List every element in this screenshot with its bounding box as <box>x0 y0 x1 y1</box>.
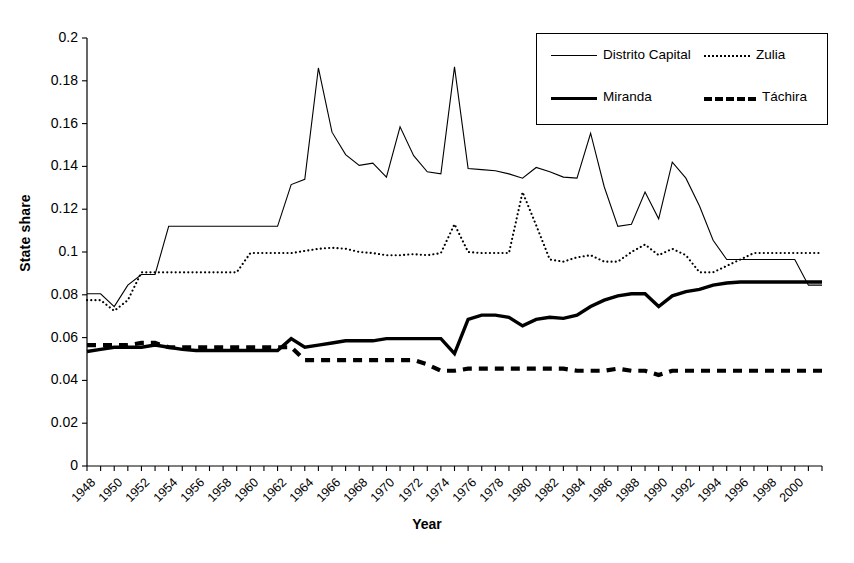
y-tick-label: 0.08 <box>28 287 78 301</box>
legend-item-zulia: Zulia <box>704 48 785 62</box>
legend-label-distrito-capital: Distrito Capital <box>603 48 691 62</box>
legend-item-miranda: Miranda <box>551 90 652 104</box>
legend-swatch-dotted-icon <box>704 49 750 61</box>
legend-item-distrito-capital: Distrito Capital <box>551 48 691 62</box>
legend-swatch-thick-solid-icon <box>551 91 597 103</box>
y-tick-label: 0.2 <box>28 30 78 44</box>
y-tick-label: 0 <box>28 458 78 472</box>
y-tick-label: 0.04 <box>28 372 78 386</box>
chart-figure: State share Distrito Capital Zulia Miran… <box>0 0 854 563</box>
y-tick-label: 0.06 <box>28 330 78 344</box>
y-tick-label: 0.18 <box>28 73 78 87</box>
y-axis-title: State share <box>8 0 42 466</box>
y-tick-label: 0.12 <box>28 201 78 215</box>
legend-item-tachira: Táchira <box>704 90 807 104</box>
y-tick-label: 0.14 <box>28 158 78 172</box>
legend-swatch-thick-dashed-icon <box>704 91 756 103</box>
series-line-tachira <box>87 343 822 375</box>
series-line-miranda <box>87 282 822 354</box>
legend-swatch-thin-solid-icon <box>551 49 597 61</box>
x-axis-title: Year <box>0 516 854 532</box>
y-tick-label: 0.1 <box>28 244 78 258</box>
legend: Distrito Capital Zulia Miranda Táchira <box>536 33 828 125</box>
legend-label-zulia: Zulia <box>756 48 785 62</box>
series-line-zulia <box>87 192 822 311</box>
legend-label-miranda: Miranda <box>603 90 652 104</box>
legend-label-tachira: Táchira <box>762 90 807 104</box>
y-tick-label: 0.02 <box>28 415 78 429</box>
y-tick-label: 0.16 <box>28 116 78 130</box>
